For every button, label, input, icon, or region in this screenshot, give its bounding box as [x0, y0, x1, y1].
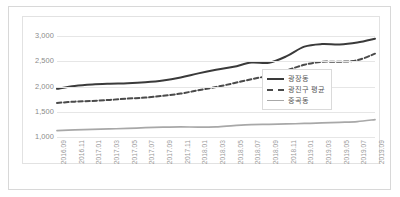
x-axis: 2016.092016.112017.012017.032017.052017.… — [57, 140, 375, 186]
x-tick-label: 2019.05 — [343, 140, 350, 164]
x-tick-label: 2018.09 — [272, 140, 279, 164]
x-tick-label: 2018.01 — [201, 140, 208, 164]
x-tick-label: 2017.11 — [184, 140, 191, 164]
legend-line-dashed-dark-icon — [267, 86, 284, 94]
x-tick-label: 2017.01 — [95, 140, 102, 164]
x-tick-label: 2019.01 — [307, 140, 314, 164]
gridline — [57, 61, 375, 62]
legend-item-2[interactable]: 중곡동 — [267, 95, 325, 106]
x-tick-label: 2018.05 — [237, 140, 244, 164]
legend-item-0[interactable]: 광장동 — [267, 73, 325, 84]
x-tick-label: 2017.03 — [113, 140, 120, 164]
x-tick-label: 2018.07 — [254, 140, 261, 164]
x-tick-label: 2017.09 — [166, 140, 173, 164]
x-tick-label: 2019.09 — [378, 140, 385, 164]
legend-item-1[interactable]: 광진구 평균 — [267, 84, 325, 95]
legend-line-solid-gray-icon — [267, 97, 284, 105]
x-tick-label: 2019.07 — [360, 140, 367, 164]
chart-legend: 광장동 광진구 평균 중곡동 — [262, 69, 332, 110]
x-tick-label: 2018.03 — [219, 140, 226, 164]
legend-label-0: 광장동 — [288, 74, 309, 83]
x-tick-label: 2017.07 — [148, 140, 155, 164]
legend-label-2: 중곡동 — [288, 96, 309, 105]
legend-line-solid-dark-icon — [267, 75, 284, 83]
x-tick-label: 2017.05 — [131, 140, 138, 164]
x-tick-label: 2019.03 — [325, 140, 332, 164]
x-tick-label: 2018.11 — [290, 140, 297, 164]
chart-figure: 1,0001,5002,0002,5003,000 2016.092016.11… — [0, 0, 400, 197]
x-tick-label: 2016.09 — [60, 140, 67, 164]
gridline — [57, 112, 375, 113]
gridline — [57, 137, 375, 138]
gridline — [57, 36, 375, 37]
series-line — [57, 120, 375, 131]
legend-label-1: 광진구 평균 — [288, 85, 325, 94]
x-tick-label: 2016.11 — [78, 140, 85, 164]
